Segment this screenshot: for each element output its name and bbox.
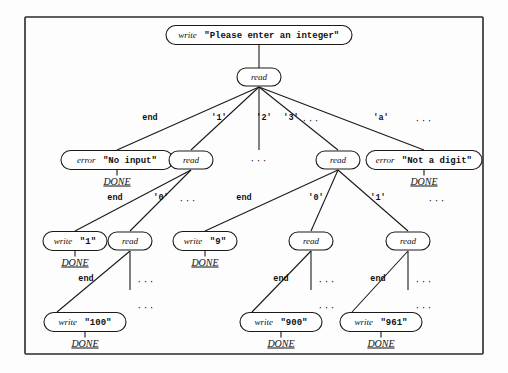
edge-label: end: [370, 274, 385, 284]
done-label: DONE: [266, 338, 294, 349]
ellipsis-marker: ···: [137, 277, 155, 287]
node-keyword: read: [122, 236, 139, 246]
edge-label: end: [142, 113, 157, 123]
node-keyword: read: [303, 236, 320, 246]
node-argument: "No input": [103, 156, 157, 166]
node-keyword: write: [184, 236, 203, 246]
ellipsis-marker: ···: [302, 116, 320, 126]
edge-label: '0': [308, 193, 323, 203]
ellipsis-marker: ···: [415, 277, 433, 287]
node-argument: "1": [80, 237, 96, 247]
edge-label: end: [273, 274, 288, 284]
node-keyword: write: [58, 317, 77, 327]
edge-label: '1': [211, 113, 226, 123]
node-keyword: error: [77, 155, 96, 165]
tree-edge: [117, 87, 259, 150]
node-argument: "9": [210, 237, 226, 247]
done-label: DONE: [409, 176, 437, 187]
node-keyword: write: [54, 236, 73, 246]
node-keyword: error: [376, 155, 395, 165]
figure-canvas: end'1''2''3''a'end'0'end'0''1'endendend·…: [0, 0, 508, 373]
done-label: DONE: [190, 257, 218, 268]
ellipsis-marker: ···: [318, 277, 336, 287]
edge-label: 'a': [373, 113, 388, 123]
edge-label: '3': [283, 113, 298, 123]
node-argument: "Please enter an integer": [204, 31, 339, 41]
decision-tree-svg: end'1''2''3''a'end'0'end'0''1'endendend·…: [0, 0, 508, 373]
node-keyword: read: [330, 155, 347, 165]
done-label: DONE: [102, 176, 130, 187]
edge-label: '1': [370, 193, 385, 203]
tree-node[interactable]: [173, 232, 237, 251]
ellipsis-marker: ···: [415, 116, 433, 126]
node-argument: "961": [380, 318, 407, 328]
done-label: DONE: [366, 338, 394, 349]
ellipsis-marker: ···: [137, 303, 155, 313]
edge-label: end: [78, 274, 93, 284]
edge-label: end: [107, 193, 122, 203]
node-argument: "100": [84, 318, 111, 328]
tree-node[interactable]: [43, 232, 107, 251]
done-label: DONE: [70, 338, 98, 349]
ellipsis-marker: ···: [318, 303, 336, 313]
node-keyword: read: [400, 236, 417, 246]
ellipsis-marker: ···: [250, 156, 268, 166]
node-keyword: write: [254, 317, 273, 327]
ellipsis-marker: ···: [428, 196, 446, 206]
node-argument: "Not a digit": [402, 156, 472, 166]
ellipsis-marker: ···: [179, 196, 197, 206]
node-keyword: read: [183, 155, 200, 165]
edge-label: '0': [153, 193, 168, 203]
ellipsis-marker: ···: [415, 303, 433, 313]
node-keyword: write: [178, 30, 197, 40]
node-keyword: read: [251, 72, 268, 82]
edge-label: '2': [256, 113, 271, 123]
tree-edge: [75, 170, 191, 231]
edge-label: end: [236, 193, 251, 203]
node-argument: "900": [280, 318, 307, 328]
done-label: DONE: [60, 257, 88, 268]
node-keyword: write: [354, 317, 373, 327]
